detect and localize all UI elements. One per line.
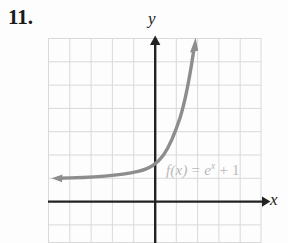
function-label-lhs: f(x) (166, 162, 188, 178)
function-label-exponent: x (211, 161, 215, 171)
x-axis (48, 196, 271, 206)
function-label-equals: = (192, 162, 201, 178)
graph-canvas (0, 0, 288, 243)
problem-number: 11. (8, 7, 33, 28)
y-axis (150, 36, 160, 243)
y-axis-arrowhead (150, 36, 160, 46)
y-axis-label: y (148, 9, 156, 29)
function-equation-label: f(x) = ex + 1 (166, 161, 240, 179)
exponential-function-graph-figure: 11. (0, 0, 288, 243)
x-axis-label: x (270, 190, 278, 210)
function-label-plus: + (219, 162, 228, 178)
function-label-constant: 1 (232, 162, 240, 178)
curve-up-arrowhead (190, 38, 198, 53)
curve-left-arrowhead (52, 174, 63, 182)
